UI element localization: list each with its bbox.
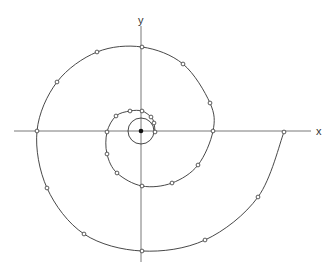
spiral-point-marker xyxy=(208,101,212,105)
spiral-curve xyxy=(37,46,284,251)
spiral-point-marker xyxy=(152,121,156,125)
spiral-point-marker xyxy=(95,50,99,54)
spiral-diagram: x y xyxy=(0,0,336,275)
y-axis-label: y xyxy=(138,14,144,26)
spiral-point-marker xyxy=(181,62,185,66)
spiral-point-marker xyxy=(282,130,286,134)
origin-point xyxy=(139,129,144,134)
spiral-point-marker xyxy=(211,129,215,133)
spiral-point-marker xyxy=(203,238,207,242)
spiral-point-marker xyxy=(45,186,49,190)
spiral-point-marker xyxy=(114,114,118,118)
spiral-point-markers xyxy=(35,45,286,253)
spiral-point-marker xyxy=(140,184,144,188)
spiral-point-marker xyxy=(128,109,132,113)
spiral-point-marker xyxy=(140,45,144,49)
spiral-point-marker xyxy=(140,249,144,253)
spiral-point-marker xyxy=(153,130,157,134)
spiral-point-marker xyxy=(196,163,200,167)
spiral-point-marker xyxy=(115,171,119,175)
spiral-point-marker xyxy=(149,115,153,119)
spiral-point-marker xyxy=(55,80,59,84)
spiral-point-marker xyxy=(35,129,39,133)
spiral-point-marker xyxy=(105,130,109,134)
spiral-point-marker xyxy=(256,195,260,199)
spiral-point-marker xyxy=(170,181,174,185)
spiral-point-marker xyxy=(82,232,86,236)
x-axis-label: x xyxy=(316,125,322,137)
spiral-point-marker xyxy=(105,152,109,156)
spiral-point-marker xyxy=(140,109,144,113)
